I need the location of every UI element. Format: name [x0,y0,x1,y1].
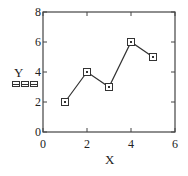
x-axis-label: X [105,154,114,166]
x-tick-label: 0 [40,138,46,150]
x-tick-label: 4 [128,138,134,150]
x-tick-label: 6 [172,138,178,150]
y-axis-placeholder [12,81,38,87]
placeholder-box-icon [12,81,20,87]
y-axis-label: Y [14,67,23,79]
y-tick-label: 6 [35,36,41,48]
y-tick-label: 8 [35,6,41,18]
placeholder-box-icon [30,81,38,87]
plot-area [43,12,175,132]
data-line [65,42,153,102]
placeholder-box-icon [21,81,29,87]
x-tick-label: 2 [84,138,90,150]
y-tick-label: 4 [35,66,41,78]
axis-ticks [43,12,175,132]
y-tick-label: 2 [35,96,41,108]
data-markers [62,39,157,106]
line-chart [0,0,188,176]
